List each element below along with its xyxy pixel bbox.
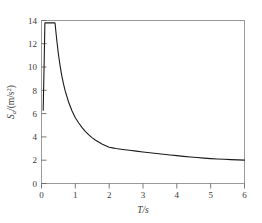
x-tick-label-1: 1 [73, 190, 78, 200]
y-tick-label-2: 2 [33, 155, 38, 165]
x-tick-label-2: 2 [107, 190, 112, 200]
y-tick-label-12: 12 [28, 39, 37, 49]
x-tick-label-6: 6 [242, 190, 247, 200]
y-tick-label-14: 14 [28, 16, 38, 26]
x-tick-label-5: 5 [208, 190, 213, 200]
y-tick-label-0: 0 [33, 179, 38, 189]
response-spectrum-chart: 0 2 4 6 8 10 12 14 0 1 2 3 4 5 6 S T/s S… [0, 0, 262, 223]
x-tick-label-4: 4 [175, 190, 180, 200]
x-tick-label-3: 3 [141, 190, 146, 200]
x-axis-ticks [42, 184, 245, 189]
y-axis-title: Sa/(m/s2) [5, 85, 17, 119]
y-tick-label-4: 4 [33, 132, 38, 142]
chart-figure: 0 2 4 6 8 10 12 14 0 1 2 3 4 5 6 S T/s S… [0, 0, 262, 223]
y-tick-label-10: 10 [28, 62, 38, 72]
x-axis-title: S T/s [137, 205, 149, 215]
y-tick-label-8: 8 [33, 86, 38, 96]
y-tick-label-6: 6 [33, 109, 38, 119]
x-tick-label-0: 0 [39, 190, 44, 200]
